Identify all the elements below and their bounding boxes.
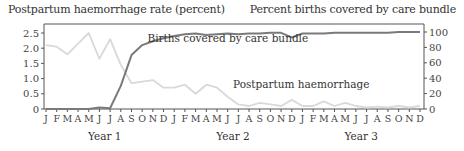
month-label: O — [267, 113, 275, 124]
month-label: A — [74, 113, 82, 124]
month-label: A — [373, 113, 381, 124]
month-label: J — [300, 113, 305, 124]
right-tick-label: 100 — [429, 27, 448, 38]
right-tick-label: 80 — [429, 42, 442, 53]
right-tick-label: 0 — [429, 104, 435, 115]
month-label: S — [256, 113, 263, 124]
month-label: M — [212, 113, 222, 124]
month-label: D — [416, 113, 424, 124]
month-label: M — [340, 113, 350, 124]
right-tick-label: 40 — [429, 73, 442, 84]
axis-labels: 00.51.01.52.02.5020406080100JFMAMJJASOND… — [23, 27, 448, 143]
month-label: D — [160, 113, 168, 124]
year-label: Year 1 — [87, 130, 122, 142]
month-label: A — [116, 113, 124, 124]
month-label: A — [202, 113, 210, 124]
left-tick-label: 0 — [33, 104, 39, 115]
month-label: A — [245, 113, 253, 124]
month-label: J — [364, 113, 369, 124]
month-label: J — [97, 113, 102, 124]
pph-rate-line — [46, 33, 420, 108]
month-label: S — [128, 113, 135, 124]
month-label: D — [288, 113, 296, 124]
month-label: M — [84, 113, 94, 124]
month-label: F — [53, 113, 60, 124]
month-label: J — [225, 113, 230, 124]
right-tick-label: 60 — [429, 57, 442, 68]
month-label: S — [385, 113, 392, 124]
year-label: Year 3 — [343, 130, 378, 142]
dual-axis-line-chart: 00.51.01.52.02.5020406080100JFMAMJJASOND… — [0, 0, 464, 151]
month-label: A — [330, 113, 338, 124]
month-label: M — [191, 113, 201, 124]
month-label: F — [310, 113, 317, 124]
month-label: M — [63, 113, 73, 124]
month-label: J — [43, 113, 48, 124]
pph-annotation: Postpartum haemorrhage — [233, 78, 369, 90]
left-tick-label: 2.0 — [23, 43, 39, 54]
left-tick-label: 1.5 — [23, 58, 39, 69]
month-label: J — [107, 113, 112, 124]
year-label: Year 2 — [215, 130, 250, 142]
month-label: J — [171, 113, 176, 124]
month-label: J — [353, 113, 358, 124]
month-label: N — [149, 113, 157, 124]
month-label: J — [235, 113, 240, 124]
month-label: N — [277, 113, 285, 124]
month-label: N — [405, 113, 413, 124]
month-label: M — [319, 113, 329, 124]
left-tick-label: 0.5 — [23, 88, 39, 99]
month-label: F — [182, 113, 189, 124]
right-tick-label: 20 — [429, 88, 442, 99]
month-label: O — [395, 113, 403, 124]
coverage-annotation: Births covered by care bundle — [148, 32, 309, 44]
left-tick-label: 2.5 — [23, 28, 39, 39]
left-tick-label: 1.0 — [23, 73, 39, 84]
month-label: O — [138, 113, 146, 124]
